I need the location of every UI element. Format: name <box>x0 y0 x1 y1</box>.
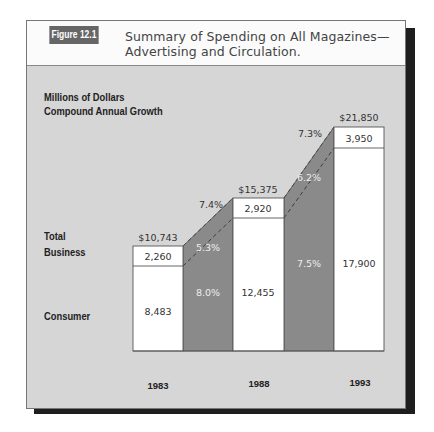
growth-connector-2 <box>284 127 334 351</box>
consumer-1993: 17,900 <box>342 258 375 269</box>
total-1988: $15,375 <box>238 184 277 195</box>
business-1983: 2,260 <box>144 251 171 262</box>
figure-frame: Figure 12.1 Summary of Spending on All M… <box>26 20 406 409</box>
growth-total-1: 7.4% <box>199 199 223 210</box>
growth-consumer-1: 8.0% <box>196 287 220 298</box>
total-1983: $10,743 <box>138 232 177 243</box>
chart-plot: $10,743 2,260 8,483 $15,375 2,920 12,455… <box>27 21 407 410</box>
growth-business-1: 5.3% <box>196 242 220 253</box>
year-1983: 1983 <box>147 380 168 391</box>
consumer-1983: 8,483 <box>144 306 171 317</box>
business-1993: 3,950 <box>345 133 372 144</box>
bar-1993 <box>334 127 384 351</box>
growth-business-2: 6.2% <box>297 172 321 183</box>
growth-consumer-2: 7.5% <box>297 258 321 269</box>
year-1988: 1988 <box>248 378 269 389</box>
bar-1988 <box>233 198 284 351</box>
business-1988: 2,920 <box>244 203 271 214</box>
total-1993: $21,850 <box>339 112 378 123</box>
growth-total-2: 7.3% <box>298 128 322 139</box>
growth-connector-1 <box>183 198 233 351</box>
year-1993: 1993 <box>349 377 370 388</box>
consumer-1988: 12,455 <box>241 287 274 298</box>
